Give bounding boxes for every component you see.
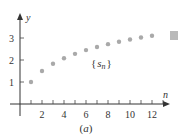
y-axis-arrow-icon <box>17 13 23 20</box>
data-point <box>128 37 132 41</box>
chart: yn24681012123{sn}(a) <box>0 0 178 137</box>
data-point <box>40 69 44 73</box>
data-point <box>73 52 77 56</box>
x-tick-label: 12 <box>147 109 157 120</box>
y-axis-label: y <box>25 12 31 23</box>
data-point <box>51 62 55 66</box>
x-tick-label: 6 <box>84 109 89 120</box>
data-point <box>84 48 88 52</box>
series-label: {sn} <box>91 57 112 71</box>
data-point <box>29 80 33 84</box>
data-point <box>117 40 121 44</box>
x-tick-label: 10 <box>125 109 135 120</box>
x-tick-label: 8 <box>106 109 111 120</box>
x-tick-label: 4 <box>62 109 67 120</box>
data-point <box>150 34 154 38</box>
gray-marker <box>170 31 178 40</box>
y-tick-label: 1 <box>9 77 14 88</box>
data-point <box>95 45 99 49</box>
x-axis-arrow-icon <box>163 101 170 107</box>
y-tick-label: 2 <box>9 55 14 66</box>
y-tick-label: 3 <box>9 33 14 44</box>
figure-caption: (a) <box>80 122 93 135</box>
x-tick-label: 2 <box>40 109 45 120</box>
x-axis-label: n <box>163 89 168 100</box>
data-point <box>106 42 110 46</box>
data-point <box>62 56 66 60</box>
data-point <box>139 35 143 39</box>
